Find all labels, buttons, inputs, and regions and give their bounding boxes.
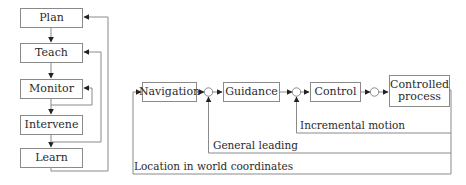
label-incremental-motion: Incremental motion [300, 119, 405, 131]
block-control: Control [310, 82, 361, 102]
step-monitor: Monitor [20, 79, 83, 99]
step-teach: Teach [20, 43, 83, 63]
block-guidance-label: Guidance [225, 86, 278, 98]
label-general-leading: General leading [213, 139, 298, 151]
step-monitor-label: Monitor [29, 83, 74, 95]
block-controlled-process: Controlled process [389, 75, 450, 107]
step-learn-label: Learn [35, 152, 68, 164]
block-navigation: Navigation [142, 82, 197, 102]
step-learn: Learn [20, 148, 83, 168]
step-plan: Plan [20, 8, 83, 28]
block-guidance: Guidance [223, 82, 280, 102]
block-controlled-process-label: Controlled process [390, 79, 449, 103]
block-navigation-label: Navigation [139, 86, 200, 98]
step-intervene: Intervene [20, 115, 83, 135]
step-plan-label: Plan [39, 12, 64, 24]
block-control-label: Control [315, 86, 357, 98]
step-intervene-label: Intervene [25, 119, 79, 131]
step-teach-label: Teach [35, 47, 68, 59]
label-location-world-coordinates: Location in world coordinates [134, 160, 293, 172]
